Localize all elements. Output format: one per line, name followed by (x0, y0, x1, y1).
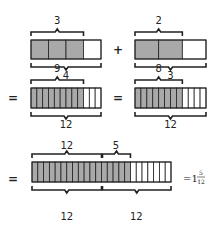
empty-part (194, 88, 200, 108)
bottom-brace (135, 63, 206, 70)
shaded-part (73, 162, 79, 182)
plus-operator: + (113, 43, 123, 57)
equals-sign-row3: = (8, 172, 18, 186)
bottom-brace (135, 112, 206, 119)
shaded-part (176, 88, 182, 108)
top-label: 9 (54, 63, 60, 74)
top-brace (135, 29, 182, 36)
bottom-label: 12 (164, 119, 177, 130)
empty-part (84, 40, 102, 59)
top-brace-2 (103, 151, 131, 158)
empty-part (182, 40, 206, 59)
empty-part (148, 162, 154, 182)
empty-part (130, 162, 136, 182)
bar-1 (31, 88, 101, 108)
bottom-label-2: 12 (130, 211, 143, 222)
bottom-label: 12 (60, 119, 73, 130)
empty-part (142, 162, 148, 182)
bar-2 (135, 40, 206, 59)
empty-part (136, 162, 142, 182)
shaded-part (119, 162, 125, 182)
top-label: 3 (54, 15, 60, 26)
empty-part (95, 88, 101, 108)
fraction-diagram: 3423 912812 1251212 + = = = =1 5 12 (0, 0, 216, 229)
shaded-part (31, 88, 37, 108)
shaded-part (141, 88, 147, 108)
bottom-brace-1 (32, 186, 102, 193)
shaded-part (31, 40, 49, 59)
result-denominator: 12 (197, 178, 205, 185)
empty-part (200, 88, 206, 108)
shaded-part (78, 88, 84, 108)
empty-part (188, 88, 194, 108)
bottom-brace (31, 112, 101, 119)
shaded-part (67, 162, 73, 182)
shaded-part (49, 88, 55, 108)
shaded-part (135, 88, 141, 108)
equals-sign-middle: = (113, 91, 123, 105)
top-brace (31, 77, 84, 84)
shaded-part (55, 162, 61, 182)
shaded-part (38, 162, 44, 182)
bottom-brace (31, 63, 101, 70)
shaded-part (102, 162, 108, 182)
shaded-part (43, 88, 49, 108)
shaded-part (165, 88, 171, 108)
empty-part (182, 88, 188, 108)
shaded-part (96, 162, 102, 182)
bottom-brace-2 (103, 186, 172, 193)
top-label-2: 5 (113, 140, 119, 151)
shaded-part (54, 88, 60, 108)
bar-2 (135, 88, 206, 108)
shaded-part (147, 88, 153, 108)
shaded-part (37, 88, 43, 108)
shaded-part (159, 88, 165, 108)
shaded-part (84, 162, 90, 182)
shaded-part (153, 88, 159, 108)
result-whole: =1 (183, 173, 198, 184)
equals-sign-row2: = (8, 91, 18, 105)
top-label: 8 (155, 63, 161, 74)
shaded-part (44, 162, 50, 182)
shaded-part (171, 88, 177, 108)
top-label: 2 (155, 15, 161, 26)
shaded-part (107, 162, 113, 182)
empty-part (165, 162, 171, 182)
empty-part (84, 88, 90, 108)
bottom-label-1: 12 (60, 211, 73, 222)
shaded-part (49, 40, 67, 59)
shaded-part (72, 88, 78, 108)
empty-part (154, 162, 160, 182)
top-brace (135, 77, 182, 84)
shaded-part (66, 88, 72, 108)
shaded-part (159, 40, 183, 59)
shaded-part (90, 162, 96, 182)
top-brace (31, 29, 84, 36)
shaded-part (60, 88, 66, 108)
shaded-part (113, 162, 119, 182)
empty-part (89, 88, 95, 108)
top-brace-1 (32, 151, 102, 158)
top-label-1: 12 (60, 140, 73, 151)
shaded-part (61, 162, 67, 182)
shaded-part (125, 162, 131, 182)
bar-1 (31, 40, 101, 59)
shaded-part (135, 40, 159, 59)
empty-part (159, 162, 165, 182)
combined-bar (32, 162, 171, 182)
shaded-part (49, 162, 55, 182)
result-numerator: 5 (199, 169, 203, 176)
shaded-part (78, 162, 84, 182)
shaded-part (66, 40, 84, 59)
shaded-part (32, 162, 38, 182)
